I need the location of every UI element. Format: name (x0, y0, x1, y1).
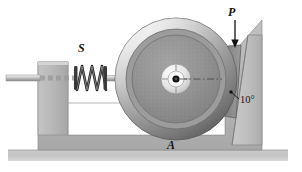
brake-disk-wheel (115, 18, 237, 140)
brake-mechanism-diagram: S P A 10° (0, 0, 302, 172)
left-support-block (38, 62, 68, 135)
figure-root: S P A 10° (0, 0, 302, 172)
ground-strip (8, 150, 294, 166)
angle-label: 10° (240, 94, 255, 105)
spring-label: S (78, 41, 85, 55)
base-label: A (166, 138, 175, 152)
force-label: P (228, 5, 236, 19)
force-arrow-p (231, 20, 238, 48)
compression-spring (74, 66, 107, 90)
